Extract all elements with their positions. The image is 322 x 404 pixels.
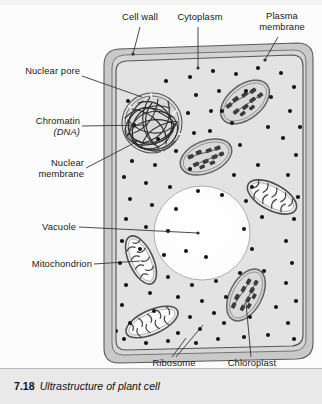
label-chloroplast: Chloroplast bbox=[217, 357, 287, 369]
label-plasma-membrane-line2: membrane bbox=[244, 21, 320, 33]
label-nuclear-membrane-line1: Nuclear bbox=[4, 157, 84, 169]
nucleus-structure bbox=[122, 93, 182, 153]
figure-title: Ultrastructure of plant cell bbox=[40, 380, 160, 392]
figure-number: 7.18 bbox=[14, 380, 35, 392]
figure-caption: 7.18Ultrastructure of plant cell bbox=[14, 380, 160, 392]
figure-caption-bar: 7.18Ultrastructure of plant cell bbox=[0, 368, 322, 404]
label-ribosome: Ribosome bbox=[140, 357, 208, 369]
label-cytoplasm: Cytoplasm bbox=[165, 11, 235, 23]
label-chromatin: Chromatin bbox=[4, 115, 80, 127]
plant-cell-diagram bbox=[0, 5, 322, 368]
label-nuclear-membrane-line2: membrane bbox=[4, 168, 84, 180]
label-mitochondrion: Mitochondrion bbox=[4, 258, 92, 270]
label-plasma-membrane-line1: Plasma bbox=[249, 10, 315, 22]
figure-illustration-area: Cell wall Cytoplasm Plasma membrane Nucl… bbox=[0, 5, 322, 368]
label-chromatin-dna: (DNA) bbox=[4, 126, 80, 138]
label-vacuole: Vacuole bbox=[4, 221, 76, 233]
label-nuclear-pore: Nuclear pore bbox=[4, 65, 80, 77]
